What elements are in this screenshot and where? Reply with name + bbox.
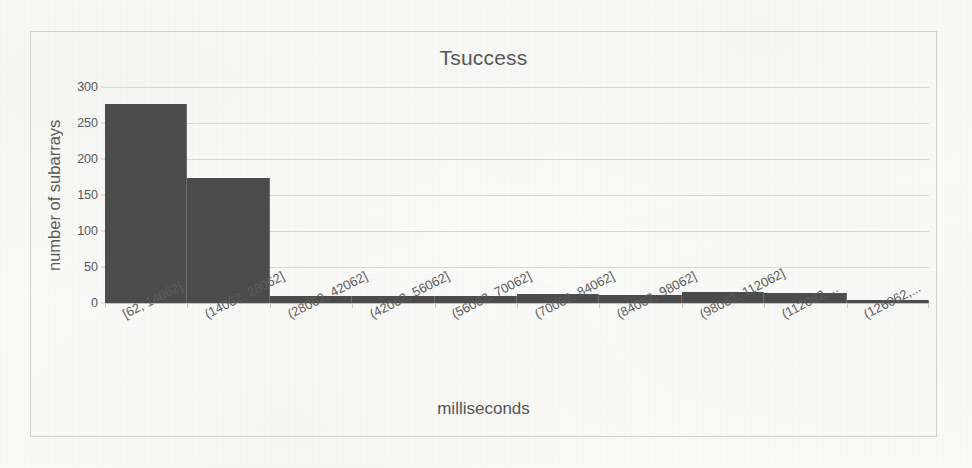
chart-title: Tsuccess [31,46,936,70]
chart-screenshot: Tsuccess number of subarrays 05010015020… [0,0,972,468]
y-axis-tick-label: 0 [91,296,98,310]
y-axis-title: number of subarrays [45,87,64,303]
y-axis-tick-label: 100 [77,224,98,238]
bar-series [105,87,929,303]
y-axis-tick-label: 50 [84,260,98,274]
chart-frame: Tsuccess number of subarrays 05010015020… [30,31,937,437]
y-axis-tick-label: 250 [77,116,98,130]
x-axis-tick-labels: [62, 14062](14062, 28062](28062, 42062](… [105,308,929,394]
x-axis-title: milliseconds [31,399,936,419]
y-axis-tick-label: 200 [77,152,98,166]
bar [105,104,187,303]
y-axis-tick-label: 150 [77,188,98,202]
y-axis-tick-label: 300 [77,80,98,94]
plot-area: 050100150200250300 [105,87,929,303]
